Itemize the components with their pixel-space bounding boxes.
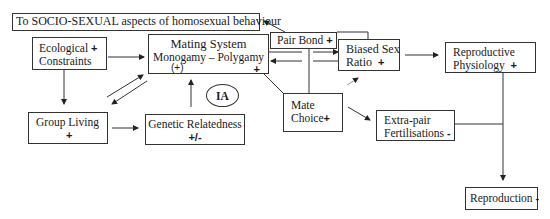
sign-positive: +	[378, 56, 384, 68]
node-label: Genetic Relatedness	[146, 118, 244, 131]
node-label: Mate	[291, 99, 342, 112]
node-mate-choice: Mate Choice+	[283, 93, 343, 132]
sign-positive: +	[254, 63, 260, 76]
node-label: Physiology	[453, 59, 505, 71]
ia-ellipse: IA	[206, 84, 239, 107]
node-group-living: Group Living +	[28, 112, 108, 144]
node-label: Reproduction	[470, 192, 533, 204]
node-ecological-constraints: Ecological + Constraints	[32, 37, 107, 70]
node-reproductive-physiology: Reproductive Physiology +	[445, 42, 536, 73]
sign-negative: -	[447, 127, 451, 139]
node-pair-bond: Pair Bond +	[270, 32, 337, 49]
sign-positive-negative: +/-	[146, 131, 244, 144]
node-title: Mating System	[149, 38, 268, 51]
sign-positive: +	[36, 129, 107, 142]
node-label: Ratio	[346, 55, 372, 69]
node-label: Group Living	[36, 116, 107, 129]
sign-positive: +	[324, 112, 330, 124]
sign-negative: -	[535, 192, 539, 204]
node-label: Extra-pair	[384, 114, 454, 127]
node-genetic-relatedness: Genetic Relatedness +/-	[145, 114, 245, 145]
node-label: Reproductive	[453, 46, 535, 59]
title-box: To SOCIO-SEXUAL aspects of homosexual be…	[12, 13, 260, 31]
node-mating-system: Mating System Monogamy – Polygamy (+) +	[148, 34, 269, 74]
node-biased-sex-ratio: Biased Sex Ratio +	[338, 39, 400, 71]
ia-label: IA	[216, 90, 229, 102]
title-box-label: To SOCIO-SEXUAL aspects of homosexual be…	[16, 15, 256, 28]
node-extra-pair-fertilisations: Extra-pair Fertilisations -	[376, 110, 455, 141]
sign-positive: +	[91, 42, 97, 54]
sign-positive: +	[326, 34, 332, 46]
node-reproduction: Reproduction -	[465, 187, 538, 210]
node-label: Constraints	[39, 55, 106, 68]
node-label: Fertilisations	[384, 127, 444, 139]
node-subtitle: Monogamy – Polygamy	[149, 51, 268, 64]
node-label: Pair Bond	[277, 34, 323, 46]
node-label: Choice	[291, 112, 324, 124]
sign-positive-parenthesized: (+)	[171, 61, 184, 74]
sign-positive: +	[511, 59, 517, 71]
node-label: Ecological	[39, 42, 88, 54]
